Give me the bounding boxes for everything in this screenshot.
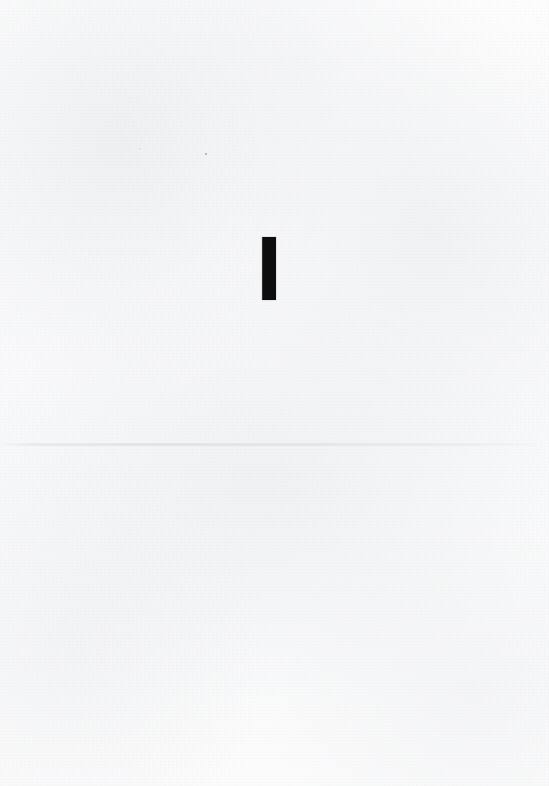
paper-crease-line (0, 443, 549, 446)
vertical-stroke-mark (262, 237, 276, 300)
scanned-page (0, 0, 549, 786)
scan-speck (139, 148, 140, 149)
paper-grain-texture (0, 0, 549, 786)
scan-speck (205, 153, 207, 155)
